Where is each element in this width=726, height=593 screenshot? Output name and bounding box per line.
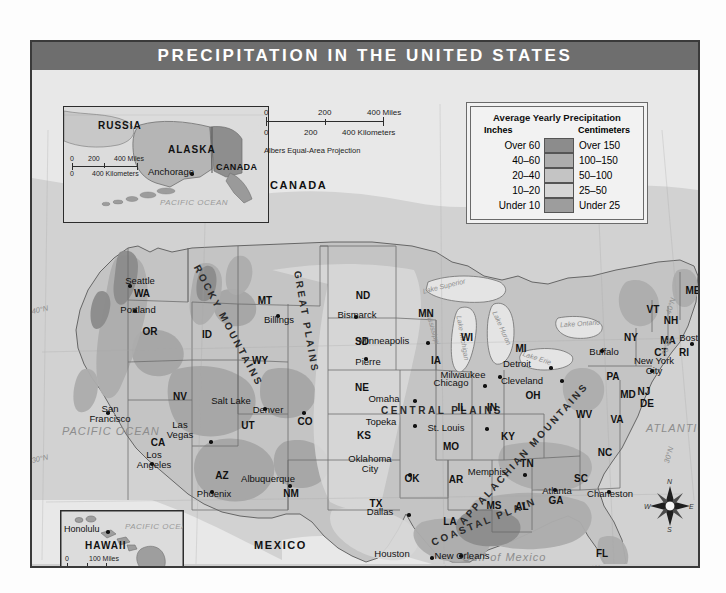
legend-row: 20–4050–100 [478,168,636,183]
state-label-ny: NY [624,333,638,343]
city-dot [485,427,489,431]
state-label-tn: TN [520,459,533,469]
alaska-scale-miles-mid: 200 [88,155,100,162]
city-label-line: Las [172,419,187,430]
country-label-mexico: MEXICO [254,540,307,551]
city-label: Minneapolis [359,336,410,346]
compass-east-label: E [689,503,694,510]
city-label: LosAngeles [137,450,171,471]
city-label: Salt Lake [211,396,251,406]
city-dot [523,473,527,477]
city-label-line: Los [146,449,161,460]
state-label-nm: NM [283,489,299,499]
city-label: St. Louis [428,423,465,433]
city-dot [133,309,137,313]
state-label-va: VA [610,415,623,425]
map-title-bar: PRECIPITATION IN THE UNITED STATES [32,42,698,72]
scale-miles-0: 0 [264,108,268,117]
legend-rows: Over 60Over 15040–60100–15020–4050–10010… [478,138,636,213]
city-dot [407,513,411,517]
scale-miles-mid: 200 [318,108,331,117]
country-label-canada: CANADA [270,180,327,191]
alaska-scale-miles-0: 0 [70,155,74,162]
city-label: Denver [253,405,284,415]
coordinate-label: 90°W [427,565,446,568]
ocean-label-atlantic: ATLANTIC OCEAN [646,422,700,436]
city-dot [690,342,694,346]
state-label-ms: MS [487,501,502,511]
city-dot [650,369,654,373]
alaska-scale-km-end: 400 Kilometers [92,170,139,177]
state-label-nd: ND [356,291,370,301]
legend-row: 10–2025–50 [478,183,636,198]
alaska-label-canada: CANADA [216,163,257,172]
legend-color-swatch [544,168,574,183]
state-label-az: AZ [215,471,228,481]
city-label: Memphis [468,467,507,477]
city-dot [209,440,213,444]
city-dot [408,473,412,477]
city-label: SanFrancisco [89,404,130,425]
scale-km-0: 0 [264,128,268,137]
state-label-ar: AR [449,475,463,485]
state-label-ky: KY [501,432,515,442]
map-page: PRECIPITATION IN THE UNITED STATES [0,0,726,593]
state-label-mo: MO [443,442,459,452]
alaska-ocean-label: PACIFIC OCEAN [160,199,228,207]
compass-west-label: W [644,503,651,510]
state-label-de: DE [640,399,654,409]
legend-color-swatch [544,138,574,153]
city-label: LasVegas [167,420,193,441]
legend-row: Over 60Over 150 [478,138,636,153]
city-label: New YorkCity [634,356,674,377]
state-label-il: IL [458,403,467,413]
state-label-ks: KS [357,431,371,441]
map-canvas: ROCKY MOUNTAINS GREAT PLAINS CENTRAL PLA… [32,70,698,564]
legend-inches-value: Under 10 [478,200,544,211]
alaska-city-dot [190,172,194,176]
legend-centimeters-value: 25–50 [574,185,636,196]
state-label-ia: IA [431,356,441,366]
state-label-la: LA [443,517,456,527]
state-label-in: IN [487,403,497,413]
city-label: Atlanta [542,486,572,496]
legend-title: Average Yearly Precipitation [478,112,636,123]
city-label: Topeka [366,417,397,427]
city-label: Phoenix [197,489,231,499]
state-label-wa: WA [134,289,150,299]
city-label: Houston [374,549,409,559]
city-label-line: Vegas [167,429,193,440]
city-dot [276,314,280,318]
state-label-wy: WY [252,356,268,366]
city-dot [549,366,553,370]
legend-inches-value: 20–40 [478,170,544,181]
inset-map-alaska[interactable]: RUSSIA ALASKA CANADA Anchorage PACIFIC O… [63,106,269,223]
city-dot [413,424,417,428]
coordinate-label: 80°W [581,565,600,568]
hawaii-city-honolulu: Honolulu [64,525,100,534]
state-label-ut: UT [241,421,254,431]
map-legend[interactable]: Average Yearly Precipitation Inches Cent… [466,102,648,224]
state-label-wv: WV [576,410,592,420]
alaska-scale-miles-end: 400 Miles [114,155,144,162]
city-label: Portland [120,305,155,315]
scale-miles-end: 400 Miles [367,108,401,117]
state-label-nj: NJ [638,387,651,397]
legend-centimeters-value: 100–150 [574,155,636,166]
city-dot [430,556,434,560]
alaska-scale-km-0: 0 [70,170,74,177]
state-label-ok: OK [405,474,420,484]
city-dot [483,384,487,388]
state-label-mn: MN [418,309,434,319]
state-label-wi: WI [461,333,473,343]
city-label-line: Angeles [137,459,171,470]
inset-map-hawaii[interactable]: Honolulu HAWAII PACIFIC OCEAN 0 100 Mile… [60,510,184,568]
state-label-ca: CA [151,438,165,448]
city-label: Buffalo [589,347,618,357]
city-dot [210,490,214,494]
city-dot [459,554,463,558]
state-label-me: ME [686,286,701,296]
legend-inches-value: Over 60 [478,140,544,151]
compass-north-label: N [667,478,672,485]
state-label-fl: FL [596,549,608,559]
